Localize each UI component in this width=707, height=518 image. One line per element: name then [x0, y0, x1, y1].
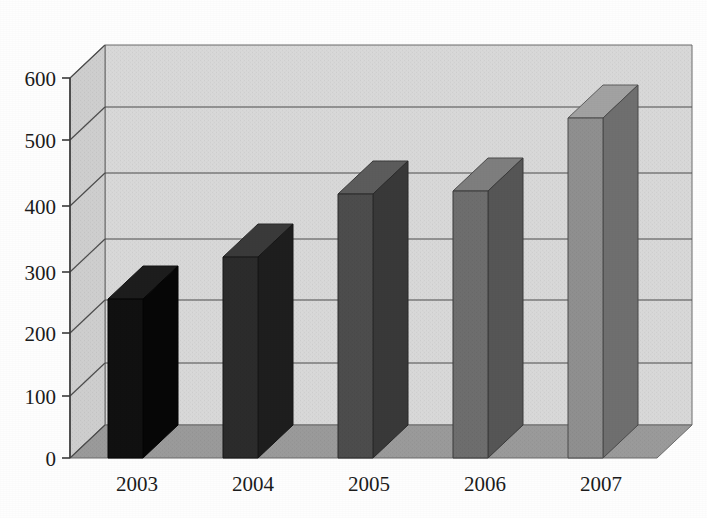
bar-2004[interactable]	[223, 224, 293, 458]
x-tick-label-2006: 2006	[464, 472, 506, 496]
y-tick-label-300: 300	[25, 261, 57, 285]
bar-chart-figure: 600 500 400 300 200 100 0 2003 2004 2005…	[0, 0, 707, 518]
bar-2004-side	[258, 224, 293, 458]
y-tick-label-500: 500	[25, 129, 57, 153]
bar-2007-side	[603, 85, 638, 458]
bar-2003-side	[143, 266, 178, 458]
y-tick-label-0: 0	[46, 447, 57, 471]
x-tick-label-2003: 2003	[116, 472, 158, 496]
bar-2006-side	[488, 158, 523, 458]
x-tick-labels: 2003 2004 2005 2006 2007	[116, 472, 622, 496]
y-tick-labels: 600 500 400 300 200 100 0	[25, 67, 57, 471]
y-tick-label-200: 200	[25, 322, 57, 346]
bar-2007[interactable]	[568, 85, 638, 458]
bar-2005-side	[373, 161, 408, 458]
chart-canvas: 600 500 400 300 200 100 0 2003 2004 2005…	[0, 0, 707, 518]
y-tick-label-100: 100	[25, 385, 57, 409]
bar-2005[interactable]	[338, 161, 408, 458]
x-tick-label-2005: 2005	[348, 472, 390, 496]
bar-2003[interactable]	[108, 266, 178, 458]
x-tick-label-2004: 2004	[232, 472, 275, 496]
bar-2006[interactable]	[453, 158, 523, 458]
y-tick-label-600: 600	[25, 67, 57, 91]
y-tick-label-400: 400	[25, 195, 57, 219]
x-tick-label-2007: 2007	[580, 472, 622, 496]
y-tick-marks	[62, 78, 70, 458]
